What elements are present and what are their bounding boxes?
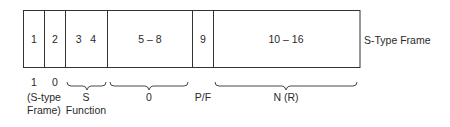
frame-type-label: S-Type Frame <box>364 34 431 46</box>
poll-final-label: P/F <box>195 91 211 103</box>
value-bit-2: 0 <box>52 76 58 88</box>
frame-box <box>24 11 361 68</box>
value-bit-1: 1 <box>31 76 37 88</box>
s-type-label-line1: (S-type <box>27 91 61 103</box>
s-function-label-line1: S <box>82 91 89 103</box>
field-bit-9: 9 <box>200 33 206 45</box>
s-type-label-line2: Frame) <box>27 104 61 116</box>
field-bit-1: 1 <box>31 33 37 45</box>
s-function-label-line2: Function <box>66 104 106 116</box>
field-bits-5-8: 5 – 8 <box>138 33 161 45</box>
brace-zero-bits <box>110 82 188 90</box>
brace-nr-bits <box>215 82 357 90</box>
field-bits-10-16: 10 – 16 <box>268 33 303 45</box>
field-bit-2: 2 <box>52 33 58 45</box>
brace-s-function <box>67 82 106 90</box>
zero-bits-label: 0 <box>146 91 152 103</box>
receive-sequence-label: N (R) <box>273 91 298 103</box>
field-bits-3-4: 3 4 <box>76 33 96 45</box>
s-type-frame-diagram: 1 2 3 4 5 – 8 9 10 – 16 S-Type Frame 1 0… <box>0 0 450 127</box>
